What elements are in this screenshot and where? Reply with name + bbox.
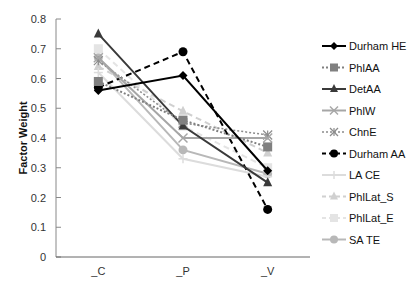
legend-item: PhlLat_E [322, 212, 394, 224]
legend: Durham HEPhlAADetAAPhlWChnEDurham AALA C… [322, 40, 406, 246]
square-marker [330, 64, 338, 72]
legend-label: SA TE [349, 234, 380, 246]
x-tick-label: _P [175, 265, 189, 277]
y-tick-label: 0.7 [31, 43, 46, 55]
square-marker [330, 214, 338, 222]
legend-label: PhlW [349, 105, 376, 117]
line-chart: 00.10.20.30.40.50.60.70.8 _C_P_V Factor … [0, 0, 415, 293]
diamond-marker [330, 42, 338, 50]
legend-item: PhlW [322, 105, 376, 117]
legend-item: Durham HE [322, 40, 406, 52]
legend-label: DetAA [349, 83, 381, 95]
y-tick-label: 0.5 [31, 102, 46, 114]
legend-item: LA CE [322, 169, 380, 181]
triangle-marker [94, 28, 103, 37]
plus-marker [330, 171, 338, 179]
y-axis: 00.10.20.30.40.50.60.70.8 [31, 13, 61, 263]
y-tick-label: 0.6 [31, 73, 46, 85]
legend-item: ChnE [322, 126, 377, 138]
circle-marker [179, 47, 188, 56]
circle-marker [330, 236, 338, 244]
x-tick-label: _V [260, 265, 275, 277]
circle-marker [179, 145, 188, 154]
x-tick-label: _C [90, 265, 105, 277]
legend-item: Durham AA [322, 148, 406, 160]
legend-item: DetAA [322, 83, 381, 95]
square-marker [94, 44, 103, 53]
y-tick-label: 0.3 [31, 162, 46, 174]
legend-label: PhlAA [349, 62, 380, 74]
legend-label: ChnE [349, 126, 377, 138]
square-marker [263, 142, 272, 151]
y-tick-label: 0 [40, 251, 46, 263]
circle-marker [263, 205, 272, 214]
legend-label: Durham HE [349, 40, 406, 52]
y-axis-title: Factor Weight [17, 101, 29, 174]
legend-item: PhlLat_S [322, 191, 394, 203]
y-tick-label: 0.8 [31, 13, 46, 25]
x-axis: _C_P_V [56, 257, 310, 277]
legend-item: PhlAA [322, 62, 380, 74]
legend-label: PhlLat_E [349, 212, 394, 224]
y-tick-label: 0.1 [31, 221, 46, 233]
circle-marker [330, 150, 338, 158]
y-tick-label: 0.2 [31, 192, 46, 204]
series-layer [94, 28, 272, 214]
legend-label: PhlLat_S [349, 191, 394, 203]
legend-item: SA TE [322, 234, 380, 246]
square-marker [94, 77, 103, 86]
y-tick-label: 0.4 [31, 132, 46, 144]
legend-label: LA CE [349, 169, 380, 181]
square-marker [179, 116, 188, 125]
legend-label: Durham AA [349, 148, 406, 160]
